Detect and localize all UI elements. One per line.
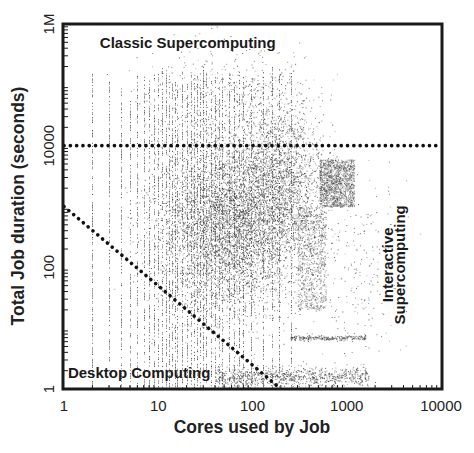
y-axis-title: Total Job duration (seconds) [8, 87, 28, 326]
x-tick-label: 1 [60, 397, 68, 414]
y-tick-label: 1M [40, 14, 57, 35]
classic-supercomputing-label: Classic Supercomputing [100, 34, 276, 51]
scatter-points [87, 27, 421, 390]
x-tick-label: 10 [150, 397, 167, 414]
x-axis-title: Cores used by Job [174, 417, 331, 437]
x-tick-label: 1000 [330, 397, 363, 414]
y-tick-label: 1 [40, 385, 57, 393]
scatter-chart: 110100100010000 1100100001M Classic Supe… [0, 0, 474, 453]
x-tick-label: 10000 [420, 397, 462, 414]
interactive-supercomputing-label-line2: Supercomputing [391, 205, 408, 324]
desktop-computing-label: Desktop Computing [68, 364, 211, 381]
x-tick-label: 100 [240, 397, 265, 414]
y-tick-label: 100 [40, 255, 57, 280]
y-tick-label: 10000 [40, 125, 57, 167]
